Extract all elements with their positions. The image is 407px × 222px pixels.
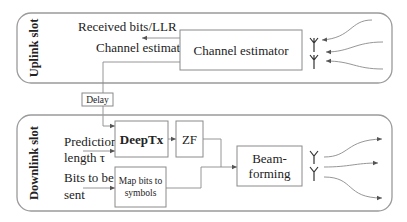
- downlink-outgoing-path: [324, 163, 378, 167]
- channel-estimate-wire: [103, 62, 180, 93]
- delay-to-deeptx-wire: [103, 106, 115, 126]
- deeptx-label: DeepTx: [120, 132, 164, 147]
- zf-to-beamforming-wire: [203, 139, 221, 167]
- beamforming-label: Beam-: [252, 151, 287, 166]
- downlink-slot: Downlink slot Prediction length τ Bits t…: [17, 115, 392, 211]
- uplink-incoming-path: [322, 20, 372, 40]
- downlink-outgoing-path: [324, 139, 382, 157]
- prediction-length-label-2: length τ: [64, 150, 105, 165]
- uplink-antenna-icon: [310, 38, 318, 69]
- channel-estimator-label: Channel estimator: [194, 43, 290, 58]
- delay-label: Delay: [86, 95, 109, 105]
- system-diagram: Uplink slot Received bits/LLR Channel es…: [0, 0, 407, 222]
- downlink-antenna-icon: [310, 151, 318, 181]
- map-to-beamforming-wire: [166, 167, 237, 188]
- map-bits-label: Map bits to: [119, 176, 163, 186]
- uplink-incoming-path: [326, 42, 383, 52]
- zf-label: ZF: [182, 132, 197, 147]
- beamforming-label-2: forming: [249, 166, 291, 181]
- uplink-slot-label: Uplink slot: [27, 18, 41, 78]
- received-bits-label: Received bits/LLR: [78, 19, 177, 34]
- bits-to-send-label: Bits to be: [64, 170, 114, 185]
- uplink-incoming-path: [326, 61, 383, 69]
- downlink-slot-label: Downlink slot: [27, 125, 41, 200]
- map-bits-label-2: symbols: [125, 188, 157, 198]
- prediction-length-label: Prediction: [64, 134, 118, 149]
- map-bits-box: [115, 167, 166, 207]
- uplink-slot: Uplink slot Received bits/LLR Channel es…: [17, 13, 392, 83]
- channel-estimate-label: Channel estimate: [96, 40, 186, 55]
- bits-to-send-label-2: sent: [64, 187, 85, 202]
- downlink-outgoing-path: [324, 177, 382, 198]
